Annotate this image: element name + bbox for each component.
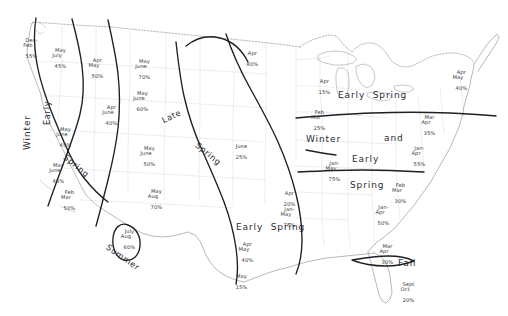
data-label-florida: Sept Oct 20%: [394, 276, 416, 310]
data-label-tennessee: Jan- May 75%: [320, 155, 342, 189]
data-label-texas-south: May 15%: [228, 268, 248, 296]
data-label-michigan: Apr 15%: [311, 73, 331, 101]
data-label-northeast: Apr May 40%: [447, 64, 469, 98]
data-label-new-mexico: May Aug 70%: [142, 183, 164, 217]
data-label-mid-atlantic: Mar Apr 35%: [415, 109, 437, 143]
data-label-minnesota: Apr 80%: [239, 45, 259, 73]
data-label-oregon-idaho: Apr May 50%: [83, 52, 105, 86]
data-label-virginia: Jan- Apr 55%: [405, 140, 427, 174]
data-label-ohio-valley: Feb Mar 25%: [305, 104, 327, 138]
data-label-wyoming: May June 60%: [128, 85, 150, 119]
data-label-montana: May June 70%: [130, 53, 152, 87]
data-label-arizona: July Aug 60%: [115, 223, 137, 257]
data-label-arkansas: Jan- May 75%: [274, 201, 298, 235]
region-label-spring-southeast: Spring: [350, 180, 384, 190]
data-label-washington: May July 45%: [46, 42, 68, 76]
data-label-nebraska-iowa: June 25%: [228, 138, 248, 166]
region-label-early-southeast: Early: [352, 154, 379, 164]
data-label-carolina: Feb Mar 30%: [386, 177, 408, 211]
region-label-fall: Fall: [398, 258, 416, 268]
data-label-utah-colorado: Apr June 40%: [97, 99, 119, 133]
region-label-early-spring-lakes: Early Spring: [338, 90, 407, 100]
data-label-texas-north: Apr May 40%: [233, 236, 255, 270]
data-label-georgia: Mar Apr 30%: [373, 238, 395, 272]
data-label-pacific-nw-coast: Dec- Feb 55%: [16, 32, 40, 66]
region-label-and: and: [384, 133, 404, 143]
data-label-nevada-north: May June 45%: [51, 121, 73, 155]
data-label-colorado-kansas: May June 50%: [135, 140, 157, 174]
seasonal-precipitation-map: Winter Early Spring Summer Late Spring E…: [0, 0, 508, 316]
data-label-california-south: Feb Mar 50%: [55, 184, 77, 218]
region-label-winter: Winter: [22, 115, 32, 150]
